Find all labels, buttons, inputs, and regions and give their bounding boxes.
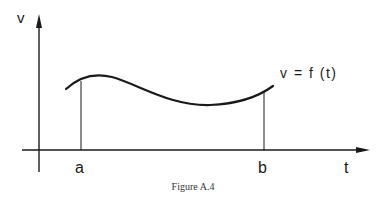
marker-b-label: b (258, 159, 267, 176)
curve-label: v = f (t) (280, 65, 337, 81)
y-axis-arrow-icon (36, 14, 42, 28)
function-curve (66, 75, 273, 105)
figure-diagram: v t a b v = f (t) Figure A.4 (0, 0, 384, 198)
figure-caption: Figure A.4 (172, 181, 215, 192)
x-axis-label: t (344, 159, 349, 176)
marker-a-label: a (75, 159, 84, 176)
x-axis-arrow-icon (356, 147, 370, 153)
y-axis-label: v (17, 9, 25, 26)
